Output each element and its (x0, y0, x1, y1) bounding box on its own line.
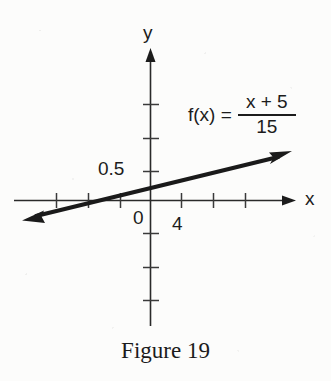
formula-fraction: x + 5 15 (238, 92, 296, 137)
x-axis-label: x (305, 188, 315, 210)
figure-caption: Figure 19 (0, 338, 331, 364)
function-line-left-arrowhead (22, 211, 45, 224)
x-axis-arrowhead (282, 196, 296, 206)
x-tick-label-4: 4 (172, 213, 183, 235)
y-tick-label-0.5: 0.5 (98, 158, 124, 180)
origin-label: 0 (133, 207, 144, 229)
y-axis-label: y (143, 22, 153, 44)
function-line (36, 157, 278, 216)
function-formula-annotation: f(x) = x + 5 15 (188, 92, 296, 137)
function-line-group (22, 151, 292, 223)
formula-left-hand-side: f(x) = (188, 104, 232, 126)
x-axis-group (14, 193, 296, 208)
formula-denominator: 15 (253, 116, 280, 138)
graph-canvas (0, 0, 331, 381)
y-axis-arrowhead (146, 48, 156, 62)
formula-numerator: x + 5 (243, 92, 291, 114)
figure-container: y x 0.5 0 4 f(x) = x + 5 15 Figure 19 (0, 0, 331, 381)
